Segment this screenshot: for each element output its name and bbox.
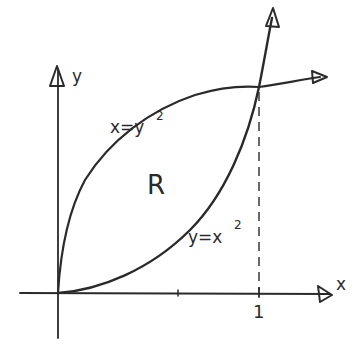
curve-y-eq-x-squared xyxy=(58,18,272,293)
y-axis-label: y xyxy=(72,66,82,86)
region-label: R xyxy=(147,170,165,200)
lower-curve-equation: y=x xyxy=(188,227,222,247)
y-axis xyxy=(50,66,64,338)
lower-curve-exponent: 2 xyxy=(234,218,242,232)
x-axis xyxy=(20,286,332,302)
curve-x-eq-y-squared xyxy=(58,77,320,293)
upper-curve-exponent: 2 xyxy=(156,109,164,123)
upper-curve-equation: x=y xyxy=(110,117,144,137)
y-axis-arrow-icon xyxy=(50,66,64,86)
x-axis-label: x xyxy=(336,274,346,294)
x-tick-label-1: 1 xyxy=(253,301,264,322)
diagram-canvas: y x 1 x=y 2 y=x 2 R xyxy=(0,0,364,348)
